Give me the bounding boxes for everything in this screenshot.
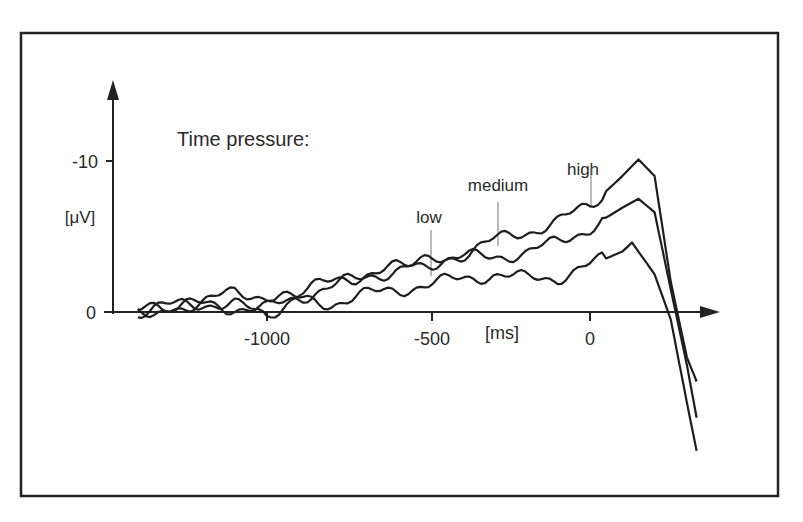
series-label-high: high [567,160,599,179]
annotation-title: Time pressure: [177,128,310,150]
y-axis-label: [μV] [65,208,96,227]
x-axis: -1000 -500 0 [ms] [113,306,720,349]
x-tick-label-0: 0 [585,329,595,349]
x-axis-arrow-icon [700,306,720,318]
y-axis: -10 0 [μV] [65,80,119,323]
series-labels: low medium high [416,160,599,276]
x-axis-label: [ms] [485,323,519,343]
series-label-medium: medium [468,176,528,195]
series-label-low: low [416,208,442,227]
x-tick-label-neg1000: -1000 [244,329,290,349]
x-tick-label-neg500: -500 [414,329,450,349]
y-axis-arrow-icon [107,80,119,100]
series-line-medium [138,199,697,418]
y-tick-label-0: 0 [86,303,96,323]
series-lines [138,160,697,451]
erp-chart: -10 0 [μV] -1000 -500 0 [ms] Time pressu… [0,0,803,522]
y-tick-label-neg10: -10 [72,152,98,172]
